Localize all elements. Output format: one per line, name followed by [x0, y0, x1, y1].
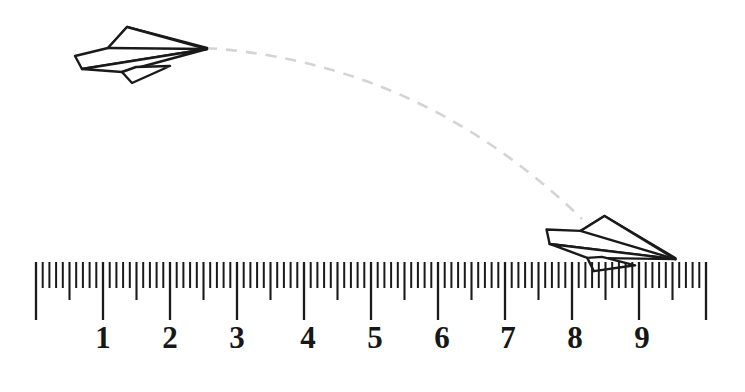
ruler-label-9: 9: [622, 322, 662, 353]
measuring-ruler: [36, 262, 706, 320]
plane-nose-line: [108, 48, 207, 49]
plane-tail-fin: [122, 66, 170, 83]
ruler-label-6: 6: [422, 322, 462, 353]
ruler-label-5: 5: [355, 322, 395, 353]
flight-path-group: [206, 48, 582, 219]
flight-distance-diagram: 123456789: [0, 0, 745, 392]
ruler-label-4: 4: [288, 322, 328, 353]
ruler-label-7: 7: [488, 322, 528, 353]
ruler-label-8: 8: [555, 322, 595, 353]
ruler-label-1: 1: [83, 322, 123, 353]
ruler-label-2: 2: [150, 322, 190, 353]
flight-path-curve: [206, 48, 582, 219]
paper-airplane-launch: [75, 27, 207, 83]
ruler-label-3: 3: [217, 322, 257, 353]
